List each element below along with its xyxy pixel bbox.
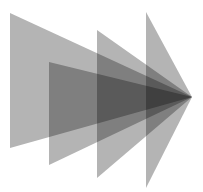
graphic-stage: Layered translucent triangular wedges fo… (0, 0, 203, 192)
layered-arrow-graphic: Layered translucent triangular wedges fo… (0, 0, 203, 192)
